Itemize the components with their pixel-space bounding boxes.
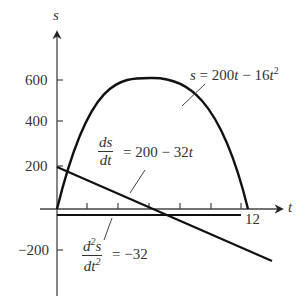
x-ticks (87, 203, 241, 209)
y-tick-200: 200 (25, 159, 48, 174)
leader-acceleration (104, 218, 112, 240)
leader-velocity (130, 170, 145, 193)
acceleration-equation-rhs: = −32 (112, 247, 148, 262)
x-axis-label: t (288, 200, 292, 215)
position-equation-label: s = 200t − 16t2 (190, 66, 279, 83)
velocity-equation-rhs: = 200 − 32t (123, 145, 193, 160)
y-axis-label: s (53, 8, 59, 23)
velocity-fraction: ds dt (98, 135, 113, 168)
x-tick-12: 12 (245, 212, 260, 227)
y-ticks (57, 80, 63, 250)
acceleration-fraction: d2s dt2 (82, 237, 102, 274)
y-tick-400: 400 (25, 114, 48, 129)
y-tick-neg200: −200 (18, 243, 49, 258)
y-tick-600: 600 (25, 73, 48, 88)
